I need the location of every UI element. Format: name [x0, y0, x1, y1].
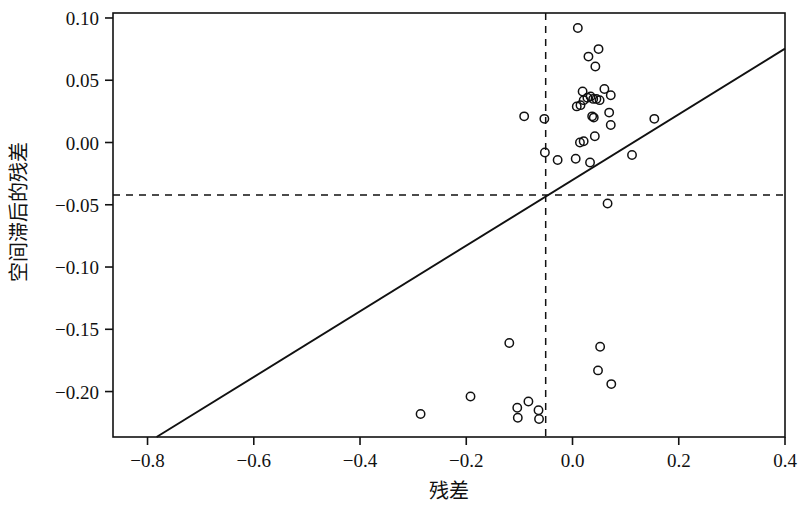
x-tick-label: −0.8: [130, 450, 164, 471]
plot-frame: [113, 13, 785, 437]
plot-svg: −0.8−0.6−0.4−0.20.00.20.4 0.100.050.00−0…: [0, 0, 810, 515]
data-points: [416, 24, 658, 423]
data-point: [650, 115, 658, 123]
data-point: [584, 52, 592, 60]
data-point: [535, 415, 543, 423]
y-tick-label: 0.05: [66, 70, 99, 91]
data-point: [541, 148, 549, 156]
y-tick-label: −0.10: [55, 257, 99, 278]
reference-lines: [113, 13, 785, 437]
data-point: [513, 404, 521, 412]
data-point: [586, 158, 594, 166]
data-point: [466, 392, 474, 400]
y-axis-tick-labels: 0.100.050.00−0.05−0.10−0.15−0.20: [55, 8, 99, 403]
fit-line: [157, 49, 785, 437]
data-point: [607, 380, 615, 388]
x-tick-label: −0.2: [449, 450, 483, 471]
x-tick-label: 0.2: [667, 450, 691, 471]
data-point: [591, 132, 599, 140]
moran-scatterplot: −0.8−0.6−0.4−0.20.00.20.4 0.100.050.00−0…: [0, 0, 810, 515]
data-point: [520, 112, 528, 120]
data-point: [574, 24, 582, 32]
moran-regression-line: [157, 49, 785, 437]
data-point: [628, 151, 636, 159]
data-point: [607, 91, 615, 99]
x-tick-label: 0.0: [561, 450, 585, 471]
data-point: [514, 413, 522, 421]
y-tick-label: −0.20: [55, 382, 99, 403]
data-point: [605, 108, 613, 116]
plot-border: [113, 13, 785, 437]
data-point: [607, 121, 615, 129]
data-point: [594, 45, 602, 53]
y-tick-label: −0.05: [55, 195, 99, 216]
data-point: [594, 366, 602, 374]
data-point: [553, 156, 561, 164]
x-tick-label: −0.4: [343, 450, 378, 471]
y-axis-title: 空间滞后的残差: [7, 142, 31, 282]
data-point: [505, 339, 513, 347]
x-axis-ticks: [148, 437, 785, 445]
y-tick-label: −0.15: [55, 319, 99, 340]
y-axis-ticks: [105, 18, 113, 392]
data-point: [596, 343, 604, 351]
data-point: [540, 115, 548, 123]
data-point: [534, 406, 542, 414]
x-tick-label: 0.4: [773, 450, 797, 471]
y-tick-label: 0.00: [66, 133, 99, 154]
x-axis-tick-labels: −0.8−0.6−0.4−0.20.00.20.4: [130, 450, 797, 471]
x-tick-label: −0.6: [237, 450, 271, 471]
data-point: [571, 154, 579, 162]
data-point: [416, 410, 424, 418]
x-axis-title: 残差: [429, 479, 469, 503]
data-point: [524, 397, 532, 405]
data-point: [603, 199, 611, 207]
data-point: [591, 62, 599, 70]
y-tick-label: 0.10: [66, 8, 99, 29]
